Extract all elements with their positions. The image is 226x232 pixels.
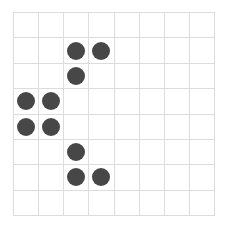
board-cell[interactable] <box>64 89 89 114</box>
board-cell[interactable] <box>89 115 114 140</box>
board-cell[interactable] <box>140 140 165 165</box>
board-cell[interactable] <box>165 64 190 89</box>
board-cell[interactable] <box>165 89 190 114</box>
board-cell[interactable] <box>39 13 64 38</box>
stone-piece[interactable] <box>17 92 35 110</box>
board-cell[interactable] <box>140 64 165 89</box>
board-cell[interactable] <box>115 191 140 216</box>
game-board <box>13 12 215 216</box>
board-cell[interactable] <box>14 140 39 165</box>
board-cell[interactable] <box>64 191 89 216</box>
board-cell[interactable] <box>140 191 165 216</box>
board-cell[interactable] <box>14 38 39 63</box>
stone-piece[interactable] <box>17 118 35 136</box>
board-cell[interactable] <box>39 89 64 114</box>
board-cell[interactable] <box>115 140 140 165</box>
board-cell[interactable] <box>14 165 39 190</box>
board-cell[interactable] <box>14 89 39 114</box>
board-cell[interactable] <box>89 165 114 190</box>
board-cell[interactable] <box>14 115 39 140</box>
board-cell[interactable] <box>64 165 89 190</box>
board-cell[interactable] <box>39 165 64 190</box>
board-cell[interactable] <box>190 191 215 216</box>
stone-piece[interactable] <box>67 143 85 161</box>
board-cell[interactable] <box>115 115 140 140</box>
board-cell[interactable] <box>14 64 39 89</box>
board-cell[interactable] <box>115 89 140 114</box>
board-cell[interactable] <box>89 64 114 89</box>
board-cell[interactable] <box>14 191 39 216</box>
board-cell[interactable] <box>89 89 114 114</box>
board-cell[interactable] <box>89 140 114 165</box>
board-cell[interactable] <box>190 115 215 140</box>
board-cell[interactable] <box>39 140 64 165</box>
board-cell[interactable] <box>64 64 89 89</box>
stone-piece[interactable] <box>92 42 110 60</box>
board-cell[interactable] <box>165 140 190 165</box>
board-cell[interactable] <box>165 191 190 216</box>
board-cell[interactable] <box>64 140 89 165</box>
board-cell[interactable] <box>190 89 215 114</box>
board-cell[interactable] <box>165 13 190 38</box>
board-cell[interactable] <box>89 191 114 216</box>
board-cell[interactable] <box>190 140 215 165</box>
board-cell[interactable] <box>190 64 215 89</box>
board-cell[interactable] <box>39 38 64 63</box>
board-cell[interactable] <box>190 38 215 63</box>
stone-piece[interactable] <box>42 118 60 136</box>
board-cell[interactable] <box>14 13 39 38</box>
board-cell[interactable] <box>165 165 190 190</box>
board-cell[interactable] <box>115 13 140 38</box>
board-cell[interactable] <box>39 64 64 89</box>
stone-piece[interactable] <box>67 168 85 186</box>
board-cell[interactable] <box>190 13 215 38</box>
board-cell[interactable] <box>165 38 190 63</box>
board-cell[interactable] <box>115 64 140 89</box>
stone-piece[interactable] <box>67 42 85 60</box>
board-cell[interactable] <box>64 115 89 140</box>
board-cell[interactable] <box>140 13 165 38</box>
board-cell[interactable] <box>140 89 165 114</box>
board-cell[interactable] <box>89 38 114 63</box>
board-cell[interactable] <box>140 115 165 140</box>
board-cell[interactable] <box>165 115 190 140</box>
stone-piece[interactable] <box>92 168 110 186</box>
board-cell[interactable] <box>115 165 140 190</box>
board-cell[interactable] <box>190 165 215 190</box>
board-cell[interactable] <box>89 13 114 38</box>
board-cell[interactable] <box>39 115 64 140</box>
board-cell[interactable] <box>140 38 165 63</box>
board-cell[interactable] <box>140 165 165 190</box>
board-cell[interactable] <box>64 13 89 38</box>
board-cell[interactable] <box>64 38 89 63</box>
board-cell[interactable] <box>39 191 64 216</box>
board-cell[interactable] <box>115 38 140 63</box>
stone-piece[interactable] <box>42 92 60 110</box>
stone-piece[interactable] <box>67 67 85 85</box>
